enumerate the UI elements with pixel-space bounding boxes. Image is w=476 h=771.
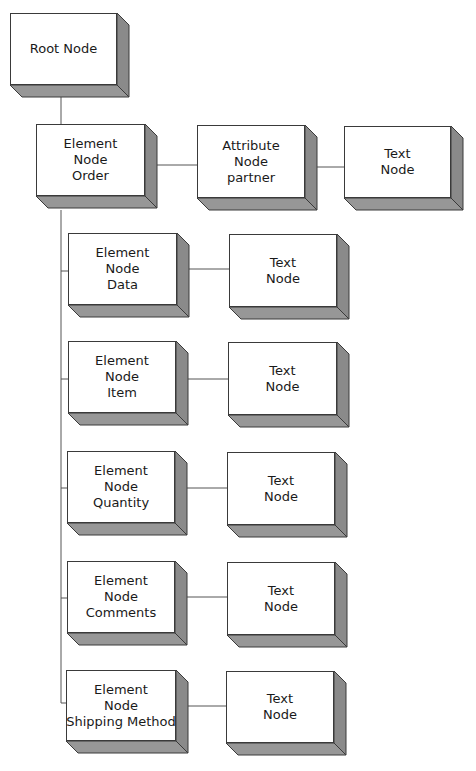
node-label-line: partner bbox=[227, 170, 275, 186]
node-label-line: Text bbox=[268, 473, 294, 489]
box-side-shade bbox=[451, 126, 463, 210]
box-bottom-shade bbox=[68, 413, 188, 425]
node-label-line: Node bbox=[264, 489, 298, 505]
node-face: TextNode bbox=[226, 671, 334, 743]
node-label-line: Text bbox=[270, 255, 296, 271]
node-label-line: Element bbox=[94, 682, 148, 698]
node-label-line: Text bbox=[269, 363, 295, 379]
node-label-line: Node bbox=[104, 698, 138, 714]
node-label-line: Data bbox=[107, 277, 138, 293]
node-label-line: Node bbox=[264, 599, 298, 615]
node-face: ElementNodeData bbox=[68, 233, 177, 305]
box-bottom-shade bbox=[66, 741, 188, 753]
node-label-line: Node bbox=[104, 479, 138, 495]
box-side-shade bbox=[175, 451, 187, 535]
node-label-line: Order bbox=[72, 168, 109, 184]
connector-element-order-to-element-data bbox=[61, 210, 68, 271]
box-bottom-shade bbox=[10, 85, 129, 97]
node-face: TextNode bbox=[344, 126, 451, 198]
node-label-line: Node bbox=[104, 589, 138, 605]
node-label-line: Element bbox=[95, 353, 149, 369]
box-bottom-shade bbox=[67, 523, 187, 535]
node-label-line: Text bbox=[268, 583, 294, 599]
node-face: AttributeNodepartner bbox=[197, 125, 305, 198]
node-label-line: Element bbox=[94, 463, 148, 479]
box-bottom-shade bbox=[197, 198, 317, 210]
node-label-line: Text bbox=[384, 146, 410, 162]
node-label-line: Element bbox=[96, 245, 150, 261]
node-face: ElementNodeOrder bbox=[36, 124, 145, 196]
box-bottom-shade bbox=[228, 415, 349, 427]
box-bottom-shade bbox=[227, 635, 347, 647]
node-label-line: Node bbox=[234, 154, 268, 170]
node-label-line: Text bbox=[267, 691, 293, 707]
box-side-shade bbox=[175, 561, 187, 645]
node-label-line: Node bbox=[105, 369, 139, 385]
connector-element-order-to-element-shipping-method bbox=[61, 271, 66, 703]
box-bottom-shade bbox=[227, 525, 347, 537]
node-label-line: Item bbox=[107, 385, 137, 401]
node-label-line: Root Node bbox=[30, 41, 98, 57]
node-label-line: Node bbox=[74, 152, 108, 168]
box-side-shade bbox=[177, 233, 189, 317]
box-bottom-shade bbox=[344, 198, 463, 210]
node-label-line: Node bbox=[266, 379, 300, 395]
node-label-line: Comments bbox=[86, 605, 156, 621]
node-face: ElementNodeShipping Method bbox=[66, 670, 176, 741]
box-bottom-shade bbox=[67, 633, 187, 645]
box-side-shade bbox=[176, 341, 188, 425]
box-side-shade bbox=[145, 124, 157, 208]
box-side-shade bbox=[305, 125, 317, 210]
box-side-shade bbox=[335, 562, 347, 647]
box-side-shade bbox=[337, 234, 349, 319]
node-label-line: Node bbox=[263, 707, 297, 723]
node-face: TextNode bbox=[229, 234, 337, 307]
box-side-shade bbox=[334, 671, 346, 755]
node-label-line: Node bbox=[266, 271, 300, 287]
node-face: TextNode bbox=[227, 562, 335, 635]
node-face: TextNode bbox=[227, 452, 335, 525]
box-side-shade bbox=[335, 452, 347, 537]
node-label-line: Element bbox=[64, 136, 118, 152]
box-bottom-shade bbox=[229, 307, 349, 319]
box-side-shade bbox=[117, 13, 129, 97]
node-face: Root Node bbox=[10, 13, 117, 85]
node-label-line: Quantity bbox=[93, 495, 149, 511]
box-side-shade bbox=[176, 670, 188, 753]
node-face: ElementNodeItem bbox=[68, 341, 176, 413]
box-side-shade bbox=[337, 342, 349, 427]
node-label-line: Shipping Method bbox=[66, 714, 176, 730]
node-label-line: Node bbox=[381, 162, 415, 178]
box-bottom-shade bbox=[68, 305, 189, 317]
box-bottom-shade bbox=[226, 743, 346, 755]
node-face: ElementNodeComments bbox=[67, 561, 175, 633]
node-face: ElementNodeQuantity bbox=[67, 451, 175, 523]
node-label-line: Node bbox=[106, 261, 140, 277]
node-label-line: Attribute bbox=[222, 138, 279, 154]
node-face: TextNode bbox=[228, 342, 337, 415]
box-bottom-shade bbox=[36, 196, 157, 208]
node-label-line: Element bbox=[94, 573, 148, 589]
